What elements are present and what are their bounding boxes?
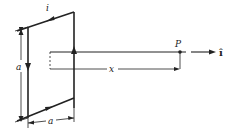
current-arrow-up-icon	[71, 46, 77, 54]
current-loop-diagram: i a a x P î	[0, 0, 233, 132]
current-arrow-left-icon	[46, 16, 55, 22]
loop-bottom-edge	[17, 98, 74, 121]
distance-arrow-icon	[174, 67, 180, 71]
vertical-dimension	[15, 27, 28, 122]
side-label-horizontal: a	[48, 116, 53, 126]
loop-left-edge	[25, 27, 31, 118]
dimension-arrow-right-icon	[68, 116, 74, 120]
current-arrow-down-icon	[25, 63, 31, 71]
loop-right-edge	[71, 12, 77, 108]
point-label: P	[174, 39, 182, 49]
distance-label: x	[109, 64, 114, 74]
current-label: i	[46, 3, 49, 13]
unit-vector-arrow	[191, 50, 216, 55]
distance-dimension	[50, 52, 180, 71]
unit-vector-label: î	[219, 47, 223, 58]
side-label-vertical: a	[16, 62, 21, 72]
unit-vector-arrow-icon	[209, 50, 216, 55]
current-arrow-right-icon	[45, 107, 53, 112]
point-p-dot	[178, 50, 182, 54]
